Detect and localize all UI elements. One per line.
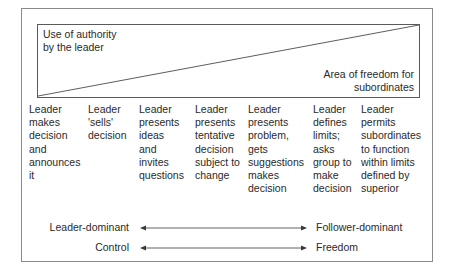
scale-left-control: Control (95, 241, 129, 254)
scale-left-leader-dominant: Leader-dominant (50, 221, 129, 234)
behaviour-2: Leader 'sells' decision (88, 103, 127, 143)
freedom-label: Area of freedom for subordinates (324, 68, 414, 94)
behaviour-1: Leader makes decision and announces it (29, 103, 80, 182)
behaviour-7: Leader permits subordinates to function … (361, 103, 421, 195)
double-arrow-icon (140, 244, 307, 252)
scale-right-follower-dominant: Follower-dominant (316, 221, 402, 234)
behaviour-6: Leader defines limits; asks group to mak… (313, 103, 352, 195)
authority-label: Use of authority by the leader (43, 28, 117, 54)
behaviour-3: Leader presents ideas and invites questi… (139, 103, 184, 182)
scale-right-freedom: Freedom (316, 241, 358, 254)
double-arrow-icon (140, 224, 307, 232)
authority-freedom-box: Use of authority by the leader Area of f… (37, 24, 420, 98)
behaviour-4: Leader presents tentative decision subje… (195, 103, 240, 182)
behaviour-5: Leader presents problem, gets suggestion… (248, 103, 304, 195)
